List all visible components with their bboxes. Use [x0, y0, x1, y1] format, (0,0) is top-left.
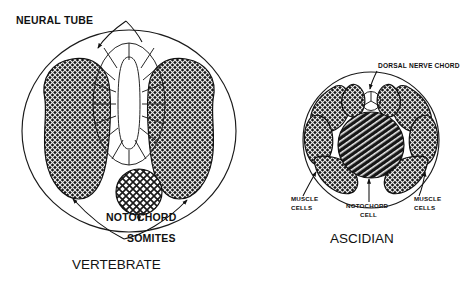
somites-label: SOMITES: [127, 232, 176, 244]
dorsal-nerve-chord-label: DORSAL NERVE CHORD: [378, 62, 460, 69]
muscle-cells-left-label-line1: MUSCLE: [291, 195, 318, 202]
notochord-label: NOTOCHORD: [106, 211, 177, 223]
comparative-cross-section-figure: NEURAL TUBE NOTOCHORD SOMITES VERTEBRATE: [0, 0, 461, 284]
vertebrate-notochord: [116, 169, 162, 215]
neural-tube-label: NEURAL TUBE: [16, 14, 93, 26]
muscle-cells-right-label-line2: CELLS: [414, 204, 435, 211]
somite-left: [44, 58, 111, 199]
muscle-cells-right-label-line1: MUSCLE: [414, 195, 441, 202]
notochord-cell-label-line1: NOTOCHORD: [346, 202, 389, 209]
ascidian-notochord-cell: [338, 112, 404, 178]
vertebrate-title: VERTEBRATE: [72, 257, 161, 272]
notochord-cell-label-line2: CELL: [360, 211, 377, 218]
ascidian-title: ASCIDIAN: [330, 231, 394, 246]
muscle-cells-left-label-line2: CELLS: [291, 204, 312, 211]
